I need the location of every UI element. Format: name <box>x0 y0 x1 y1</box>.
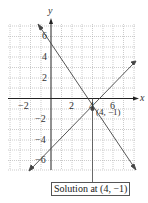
x-axis-label: x <box>140 93 144 103</box>
y-tick-2: 2 <box>42 73 47 83</box>
axes <box>8 18 139 170</box>
y-tick-neg4: −4 <box>35 135 46 145</box>
x-tick-2: 2 <box>69 101 74 111</box>
x-tick-4: 4 <box>89 101 94 111</box>
y-tick-neg6: −6 <box>35 155 46 165</box>
y-tick-4: 4 <box>42 52 47 62</box>
y-tick-6: 6 <box>42 31 47 41</box>
x-axis-arrow-icon <box>133 97 139 101</box>
y-axis-label: y <box>48 6 52 16</box>
x-tick-neg2: −2 <box>18 101 29 111</box>
y-tick-neg2: −2 <box>35 114 46 124</box>
line-y-eq-neg-x-plus-3 <box>40 27 134 167</box>
y-axis-arrow-icon <box>49 18 53 24</box>
solution-callout: Solution at (4, −1) <box>51 182 130 196</box>
point-label: (4, −1) <box>96 107 121 117</box>
grid <box>8 24 135 170</box>
